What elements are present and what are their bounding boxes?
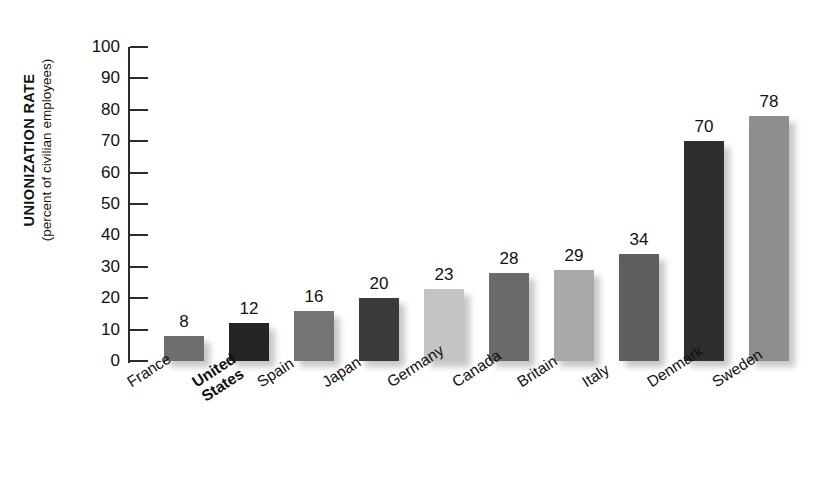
bar[interactable] [684,141,724,361]
bar[interactable] [749,116,789,361]
y-axis-title: UNIONIZATION RATE (percent of civilian e… [20,20,80,280]
y-axis-tick [130,266,148,268]
bar-value-label: 70 [674,118,734,135]
y-axis-tick [130,234,148,236]
bar-value-label: 8 [154,313,214,330]
y-axis-tick [130,77,148,79]
bar[interactable] [164,336,204,361]
y-axis-tick [130,297,148,299]
y-axis-tick-label: 60 [80,164,120,181]
y-axis-tick-label: 100 [80,38,120,55]
bar-value-label: 20 [349,275,409,292]
bar[interactable] [294,311,334,361]
bar-value-label: 28 [479,250,539,267]
y-axis-tick-label: 50 [80,195,120,212]
unionization-rate-bar-chart: UNIONIZATION RATE (percent of civilian e… [0,0,840,480]
bar-value-label: 78 [739,93,799,110]
y-axis-tick [130,109,148,111]
y-axis-tick [130,46,148,48]
y-axis-spine [128,47,130,363]
y-axis-tick-label: 90 [80,69,120,86]
bar[interactable] [619,254,659,361]
y-axis-tick-label: 0 [80,352,120,369]
y-axis-tick-label: 40 [80,226,120,243]
y-axis-tick-label: 80 [80,101,120,118]
y-axis-tick-label: 30 [80,258,120,275]
bar-value-label: 16 [284,288,344,305]
bar[interactable] [359,298,399,361]
y-axis-tick [130,172,148,174]
y-axis-tick [130,329,148,331]
bar[interactable] [229,323,269,361]
x-axis-category-label: France [124,350,174,391]
bar[interactable] [554,270,594,361]
y-axis-tick-label: 70 [80,132,120,149]
y-axis-tick-label: 20 [80,289,120,306]
y-axis-title-sub: (percent of civilian employees) [38,20,56,280]
bar-value-label: 34 [609,231,669,248]
bar-value-label: 29 [544,247,604,264]
y-axis-tick [130,140,148,142]
bar-value-label: 12 [219,300,279,317]
y-axis-tick [130,203,148,205]
y-axis-title-main: UNIONIZATION RATE [20,20,38,280]
y-axis-tick-label: 10 [80,321,120,338]
bar-value-label: 23 [414,266,474,283]
